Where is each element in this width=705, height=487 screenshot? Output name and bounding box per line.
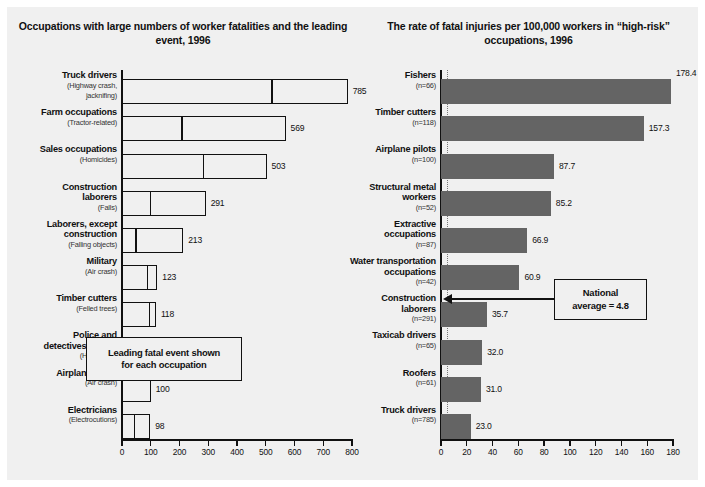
category-label-line: Fishers [336,70,436,81]
bar-event-divider [271,80,273,103]
bar-value-label: 98 [155,421,164,431]
category-sublabel-line: (Falling objects) [5,240,117,251]
bar-segment [122,116,286,141]
category-label: Timber cutters(Felled trees) [5,293,117,314]
x-axis-tick [543,441,544,446]
category-label-line: occupations [336,267,436,278]
national-average-callout-line2: average = 4.8 [555,300,646,313]
bar-value-label: 213 [188,235,202,245]
bar-value-label: 85.2 [556,198,572,208]
category-label-line: Extractive [336,219,436,230]
category-label-line: Military [5,256,117,267]
category-label: Timber cutters(n=118) [336,107,436,128]
category-label: Airplane pilots(n=100) [336,144,436,165]
x-axis-tick [294,441,295,446]
bar-value-label: 87.7 [559,161,575,171]
bar-segment [122,191,206,216]
bar-value-label: 35.7 [492,309,508,319]
bar-value-label: 569 [291,123,305,133]
bar-segment [441,228,527,253]
bar-segment [441,191,551,216]
category-label-line: Timber cutters [5,293,117,304]
bar-value-label: 157.3 [649,123,670,133]
x-axis-tick [208,441,209,446]
x-axis-line [440,439,674,441]
bar-value-label: 178.4 [676,68,697,78]
bar-segment [122,228,183,253]
x-axis-tick [440,441,441,446]
category-sublabel-line: (n=118) [336,118,436,129]
category-label: Constructionlaborers(n=291) [336,293,436,325]
category-label-line: Roofers [336,368,436,379]
category-sublabel-line: (Air crash) [5,267,117,278]
category-label-line: Sales occupations [5,144,117,155]
category-label-line: Structural metal [336,182,436,193]
x-axis-tick [621,441,622,446]
bar-event-divider [150,192,152,215]
bar-segment [441,265,519,290]
bar-value-label: 291 [211,198,225,208]
bar-event-divider [147,266,149,289]
category-sublabel-line: (n=65) [336,341,436,352]
bar-value-label: 100 [156,384,170,394]
national-average-callout: Nationalaverage = 4.8 [554,279,647,320]
category-label: Truck drivers(n=785) [336,405,436,426]
category-sublabel-line: (n=61) [336,378,436,389]
category-label: Constructionlaborers(Falls) [5,182,117,214]
category-sublabel-line: (n=291) [336,314,436,325]
category-label-line: Truck drivers [336,405,436,416]
category-label-line: Timber cutters [336,107,436,118]
bar-segment [441,302,487,327]
category-label-line: Construction [5,182,117,193]
category-label-line: laborers [5,192,117,203]
category-label: Extractiveoccupations(n=87) [336,219,436,251]
bar-event-divider [149,303,151,326]
category-label-line: Construction [336,293,436,304]
national-average-callout-line1: National [555,287,646,300]
x-axis-tick [179,441,180,446]
bar-segment [441,377,481,402]
category-label-line: Taxicab drivers [336,330,436,341]
bar-value-label: 66.9 [532,235,548,245]
bar-value-label: 23.0 [476,421,492,431]
category-label-line: Electricians [5,405,117,416]
category-sublabel-line: (Electrocutions) [5,415,117,426]
category-sublabel-line: (n=87) [336,240,436,251]
bar-segment [122,265,157,290]
bar-segment [441,414,471,439]
national-average-arrow-head [443,294,452,304]
category-sublabel-line: (n=785) [336,415,436,426]
category-label: Farm occupations(Tractor-related) [5,107,117,128]
chart-panel-right: The rate of fatal injuries per 100,000 w… [359,7,698,480]
leading-event-callout-line2: for each occupation [87,359,241,372]
category-sublabel-line: (Highway crash, [5,81,117,92]
category-label-line: occupations [336,229,436,240]
category-label-line: Laborers, except [5,219,117,230]
bar-event-divider [181,117,183,140]
x-axis-tick [121,441,122,446]
category-label: Laborers, exceptconstruction(Falling obj… [5,219,117,251]
category-label: Fishers(n=66) [336,70,436,91]
bar-segment [122,414,150,439]
x-axis-tick-label: 180 [653,447,693,457]
category-label-line: Farm occupations [5,107,117,118]
bar-segment [441,154,554,179]
category-label: Roofers(n=61) [336,368,436,389]
left-plot-area: 0100200300400500600700800Truck drivers(H… [7,7,359,480]
bar-segment [441,116,644,141]
category-label-line: laborers [336,304,436,315]
category-sublabel-line: (Tractor-related) [5,118,117,129]
category-sublabel-line: (Falls) [5,203,117,214]
category-label: Military(Air crash) [5,256,117,277]
x-axis-tick [466,441,467,446]
bar-event-divider [135,229,137,252]
right-plot-area: 020406080100120140160180Fishers(n=66)178… [359,7,698,480]
x-axis-tick [150,441,151,446]
bar-value-label: 60.9 [524,272,540,282]
category-label-line: workers [336,192,436,203]
bar-segment [122,79,348,104]
category-label: Structural metalworkers(n=52) [336,182,436,214]
bar-segment [441,340,482,365]
bar-value-label: 118 [161,309,174,319]
x-axis-tick [595,441,596,446]
